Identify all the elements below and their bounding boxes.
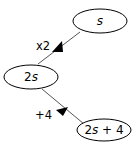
svg-text:2s: 2s	[24, 70, 38, 84]
edge-plus-four: +4	[35, 89, 84, 124]
node-2s: 2s	[4, 65, 58, 89]
edge-label-x2: x2	[36, 39, 50, 53]
svg-text:s: s	[97, 14, 103, 28]
arrowhead-icon	[56, 107, 68, 116]
svg-text:2s + 4: 2s + 4	[84, 123, 123, 137]
edge-times-two: x2	[36, 32, 80, 64]
arrowhead-icon	[52, 41, 63, 52]
node-2s-plus-4: 2s + 4	[77, 119, 131, 141]
node-2s-prefix: 2	[24, 70, 32, 84]
node-2s-var: s	[32, 70, 38, 84]
node-3-prefix: 2	[84, 123, 92, 137]
node-3-suffix: + 4	[98, 123, 123, 137]
node-s-var: s	[97, 14, 103, 28]
flow-diagram: x2 +4 s 2s 2s + 4	[0, 0, 139, 148]
node-s: s	[73, 9, 127, 33]
edge-label-plus4: +4	[35, 108, 52, 122]
